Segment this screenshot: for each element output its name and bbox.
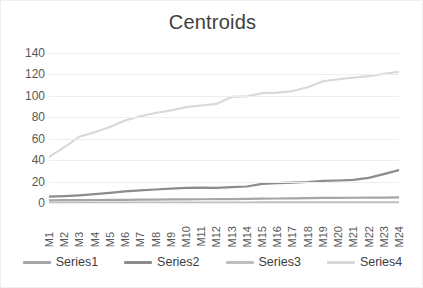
gridline	[49, 96, 399, 97]
gridline	[49, 74, 399, 75]
chart-container: Centroids 020406080100120140 M1M2M3M4M5M…	[0, 0, 423, 288]
y-axis-tick-label: 120	[3, 67, 45, 81]
x-axis-tick-label: M23	[379, 226, 390, 247]
x-axis-tick-label: M20	[333, 226, 344, 247]
x-axis-tick-label: M11	[196, 226, 207, 247]
y-axis-tick-label: 140	[3, 46, 45, 60]
x-axis-tick-label: M14	[242, 226, 253, 247]
x-axis-tick-label: M24	[394, 226, 405, 247]
legend-label: Series2	[157, 255, 199, 269]
plot-area	[49, 53, 399, 203]
x-axis-tick-label: M16	[272, 226, 283, 247]
x-axis-tick-label: M4	[90, 232, 101, 247]
y-axis-labels: 020406080100120140	[1, 53, 45, 203]
legend-label: Series3	[259, 255, 301, 269]
series-line	[49, 170, 399, 197]
gridline	[49, 203, 399, 204]
legend-swatch	[124, 261, 152, 264]
series-line	[49, 197, 399, 200]
legend-item[interactable]: Series3	[226, 255, 301, 269]
series-lines	[49, 53, 399, 203]
x-axis-tick-label: M9	[166, 232, 177, 247]
y-axis-tick-label: 100	[3, 89, 45, 103]
gridline	[49, 117, 399, 118]
x-axis-tick-label: M2	[59, 232, 70, 247]
x-axis-tick-label: M5	[105, 232, 116, 247]
y-axis-tick-label: 60	[3, 132, 45, 146]
legend-item[interactable]: Series4	[327, 255, 402, 269]
legend-swatch	[327, 261, 355, 264]
x-axis-tick-label: M3	[74, 232, 85, 247]
x-axis-tick-label: M7	[135, 232, 146, 247]
gridline	[49, 182, 399, 183]
legend-swatch	[226, 261, 254, 264]
chart-title: Centroids	[1, 11, 423, 34]
x-axis-labels: M1M2M3M4M5M6M7M8M9M10M11M12M13M14M15M16M…	[49, 205, 399, 247]
x-axis-tick-label: M19	[318, 226, 329, 247]
y-axis-tick-label: 0	[3, 196, 45, 210]
x-axis-tick-label: M22	[364, 226, 375, 247]
y-axis-tick-label: 20	[3, 175, 45, 189]
legend-label: Series1	[56, 255, 98, 269]
x-axis-tick-label: M17	[287, 226, 298, 247]
legend-swatch	[23, 261, 51, 264]
legend-item[interactable]: Series1	[23, 255, 98, 269]
x-axis-tick-label: M12	[211, 226, 222, 247]
x-axis-tick-label: M1	[44, 232, 55, 247]
x-axis-tick-label: M8	[151, 232, 162, 247]
x-axis-tick-label: M21	[348, 226, 359, 247]
legend-item[interactable]: Series2	[124, 255, 199, 269]
x-axis-tick-label: M13	[227, 226, 238, 247]
gridline	[49, 160, 399, 161]
x-axis-tick-label: M18	[303, 226, 314, 247]
legend-label: Series4	[360, 255, 402, 269]
x-axis-tick-label: M6	[120, 232, 131, 247]
y-axis-tick-label: 40	[3, 153, 45, 167]
chart-legend: Series1Series2Series3Series4	[1, 251, 423, 273]
y-axis-tick-label: 80	[3, 110, 45, 124]
series-line	[49, 72, 399, 157]
x-axis-tick-label: M10	[181, 226, 192, 247]
gridline	[49, 139, 399, 140]
gridline	[49, 53, 399, 54]
x-axis-tick-label: M15	[257, 226, 268, 247]
